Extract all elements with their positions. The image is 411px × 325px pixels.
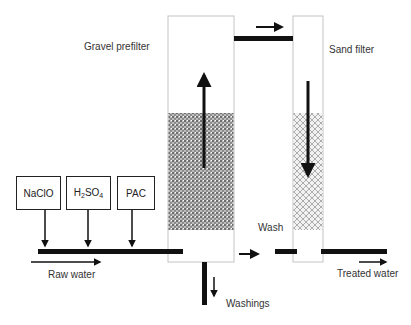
h2so4-box: H2SO4 <box>66 176 111 210</box>
gravel-prefilter-label: Gravel prefilter <box>84 41 150 52</box>
sand-filter-column <box>293 16 323 262</box>
sand-filter-label: Sand filter <box>329 44 374 55</box>
top-pipe <box>234 36 293 41</box>
gravel-media <box>169 113 234 230</box>
wash-pipe <box>275 249 297 254</box>
pac-label: PAC <box>126 188 146 199</box>
wash-label: Wash <box>258 222 283 233</box>
water-treatment-diagram: Gravel prefilter Sand filter Wash Raw wa… <box>0 0 411 325</box>
treated-water-label: Treated water <box>337 268 398 279</box>
gravel-prefilter-column <box>168 16 234 262</box>
naclo-label: NaClO <box>23 188 53 199</box>
washings-label: Washings <box>226 298 270 309</box>
pac-box: PAC <box>117 176 155 210</box>
raw-water-label: Raw water <box>48 269 95 280</box>
raw-water-pipe <box>38 249 183 254</box>
treated-water-pipe <box>321 249 387 254</box>
naclo-box: NaClO <box>16 176 61 210</box>
washings-drain-pipe <box>202 262 207 305</box>
h2so4-label: H2SO4 <box>74 187 104 199</box>
